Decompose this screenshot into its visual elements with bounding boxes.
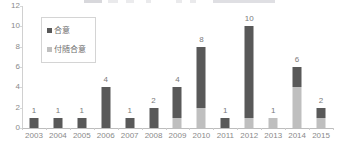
bar-segment-agreement[interactable] <box>293 67 302 87</box>
x-tick-label: 2014 <box>285 131 309 141</box>
legend-label: 合意 <box>54 26 70 35</box>
y-tick-mark <box>20 108 22 109</box>
bar-value-label: 4 <box>103 76 107 84</box>
bar-value-label: 1 <box>271 107 275 115</box>
bar-segment-agreement[interactable] <box>53 118 62 128</box>
x-tick-label: 2005 <box>70 131 94 141</box>
bar-value-label: 10 <box>245 15 254 23</box>
stacked-bar-chart: 024681012 11141248110162 200320042005200… <box>0 0 338 148</box>
bar-group[interactable]: 10 <box>237 6 261 128</box>
bar-group[interactable]: 1 <box>261 6 285 128</box>
bar-stack[interactable] <box>77 118 86 128</box>
bar-stack[interactable] <box>53 118 62 128</box>
x-tick-mark <box>142 128 143 130</box>
x-tick-mark <box>94 128 95 130</box>
bar-group[interactable]: 4 <box>166 6 190 128</box>
x-tick-label: 2004 <box>46 131 70 141</box>
x-tick-mark <box>285 128 286 130</box>
x-axis-labels: 2003200420052006200720082009201020112012… <box>22 131 333 145</box>
bar-segment-agreement[interactable] <box>29 118 38 128</box>
bar-value-label: 2 <box>319 97 323 105</box>
y-tick-label: 6 <box>2 63 20 71</box>
y-tick-mark <box>20 6 22 7</box>
bar-group[interactable]: 8 <box>189 6 213 128</box>
bar-stack[interactable] <box>293 67 302 128</box>
bar-value-label: 4 <box>175 76 179 84</box>
bar-stack[interactable] <box>197 47 206 128</box>
x-tick-label: 2012 <box>237 131 261 141</box>
x-tick-label: 2009 <box>166 131 190 141</box>
y-tick-mark <box>20 47 22 48</box>
x-tick-label: 2011 <box>213 131 237 141</box>
bar-segment-incidental-agreement[interactable] <box>269 118 278 128</box>
bar-stack[interactable] <box>149 108 158 128</box>
bar-value-label: 1 <box>32 107 36 115</box>
bar-stack[interactable] <box>29 118 38 128</box>
x-tick-mark <box>333 128 334 130</box>
bar-value-label: 1 <box>80 107 84 115</box>
bar-group[interactable]: 2 <box>309 6 333 128</box>
bar-segment-agreement[interactable] <box>149 108 158 128</box>
bar-stack[interactable] <box>269 118 278 128</box>
bar-group[interactable]: 1 <box>118 6 142 128</box>
y-tick-mark <box>20 26 22 27</box>
x-tick-mark <box>237 128 238 130</box>
y-tick-mark <box>20 87 22 88</box>
bar-value-label: 8 <box>199 36 203 44</box>
y-tick-label: 8 <box>2 43 20 51</box>
bar-stack[interactable] <box>317 108 326 128</box>
bar-stack[interactable] <box>101 87 110 128</box>
legend-swatch-icon <box>47 28 52 33</box>
x-tick-label: 2008 <box>142 131 166 141</box>
x-tick-label: 2015 <box>309 131 333 141</box>
cropped-header-artifact <box>0 0 338 5</box>
x-tick-mark <box>22 128 23 130</box>
legend-label: 付随合意 <box>54 45 86 54</box>
bar-stack[interactable] <box>173 87 182 128</box>
y-tick-label: 4 <box>2 83 20 91</box>
bar-segment-incidental-agreement[interactable] <box>317 118 326 128</box>
bar-segment-agreement[interactable] <box>221 118 230 128</box>
bar-value-label: 1 <box>127 107 131 115</box>
bar-segment-agreement[interactable] <box>317 108 326 118</box>
bar-value-label: 1 <box>56 107 60 115</box>
bar-value-label: 6 <box>295 56 299 64</box>
x-tick-label: 2007 <box>118 131 142 141</box>
bar-segment-agreement[interactable] <box>125 118 134 128</box>
bar-group[interactable]: 2 <box>142 6 166 128</box>
y-axis-labels: 024681012 <box>0 0 20 148</box>
x-tick-mark <box>70 128 71 130</box>
y-tick-label: 12 <box>2 2 20 10</box>
x-tick-mark <box>189 128 190 130</box>
y-tick-label: 0 <box>2 124 20 132</box>
bar-segment-agreement[interactable] <box>173 87 182 118</box>
y-tick-label: 2 <box>2 104 20 112</box>
legend-swatch-icon <box>47 47 52 52</box>
y-tick-mark <box>20 67 22 68</box>
x-tick-mark <box>118 128 119 130</box>
bar-segment-incidental-agreement[interactable] <box>245 118 254 128</box>
y-tick-label: 10 <box>2 22 20 30</box>
x-tick-mark <box>309 128 310 130</box>
x-axis-line <box>22 128 333 129</box>
bar-segment-incidental-agreement[interactable] <box>173 118 182 128</box>
x-tick-label: 2010 <box>189 131 213 141</box>
bar-segment-agreement[interactable] <box>245 26 254 118</box>
bar-stack[interactable] <box>125 118 134 128</box>
x-tick-label: 2013 <box>261 131 285 141</box>
x-tick-mark <box>261 128 262 130</box>
legend-item-agreement: 合意 <box>47 26 70 35</box>
legend-item-incidental-agreement: 付随合意 <box>47 45 86 54</box>
chart-legend: 合意 付随合意 <box>41 17 96 63</box>
bar-segment-incidental-agreement[interactable] <box>197 108 206 128</box>
bar-stack[interactable] <box>245 26 254 128</box>
bar-segment-agreement[interactable] <box>197 47 206 108</box>
bar-segment-agreement[interactable] <box>77 118 86 128</box>
x-tick-mark <box>46 128 47 130</box>
bar-segment-agreement[interactable] <box>101 87 110 128</box>
bar-stack[interactable] <box>221 118 230 128</box>
bar-segment-incidental-agreement[interactable] <box>293 87 302 128</box>
bar-group[interactable]: 1 <box>213 6 237 128</box>
bar-group[interactable]: 4 <box>94 6 118 128</box>
bar-group[interactable]: 6 <box>285 6 309 128</box>
